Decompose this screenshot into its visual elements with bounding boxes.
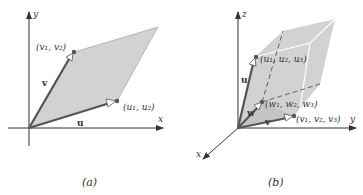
vector-u-label: u xyxy=(77,118,84,128)
caption-b: (b) xyxy=(268,176,284,189)
point-v-label: (v₁, v₂) xyxy=(36,42,67,52)
point-u xyxy=(115,99,119,103)
point-v-3d-label: (v₁, v₂, v₃) xyxy=(296,114,341,124)
point-u-label: (u₁, u₂) xyxy=(123,102,155,112)
panel-a: y x (v₁, v₂) (u₁, u₂) v u (a) xyxy=(8,9,163,189)
point-w-3d-label: (w₁, w₂, w₃) xyxy=(265,99,318,109)
caption-a: (a) xyxy=(82,176,97,189)
figure-canvas: y x (v₁, v₂) (u₁, u₂) v u (a) z y xyxy=(0,0,363,195)
x-axis-3d xyxy=(203,128,238,159)
point-u-3d xyxy=(254,55,258,59)
vector-u-3d-arrowhead xyxy=(249,58,256,66)
point-w-3d xyxy=(260,100,264,104)
point-u-3d-label: (u₁, u₂, u₃) xyxy=(260,54,307,64)
axis-z-label: z xyxy=(241,9,247,19)
point-v xyxy=(72,50,76,54)
axis-x-label-3d: x xyxy=(196,149,201,159)
vector-v-arrowhead xyxy=(66,53,73,61)
vector-v-label: v xyxy=(41,78,48,88)
vector-v-3d-label: v xyxy=(264,117,271,127)
axis-y-label: y xyxy=(32,9,39,19)
vector-w-3d-label: w xyxy=(246,108,255,118)
axis-y-label-3d: y xyxy=(349,114,356,124)
axis-x-label: x xyxy=(158,114,163,124)
panel-b: z y x (u₁, u₂, u₃) (w₁, w₂, w₃) (v₁, v₂,… xyxy=(196,9,356,189)
vector-u-3d-label: u xyxy=(241,75,248,85)
